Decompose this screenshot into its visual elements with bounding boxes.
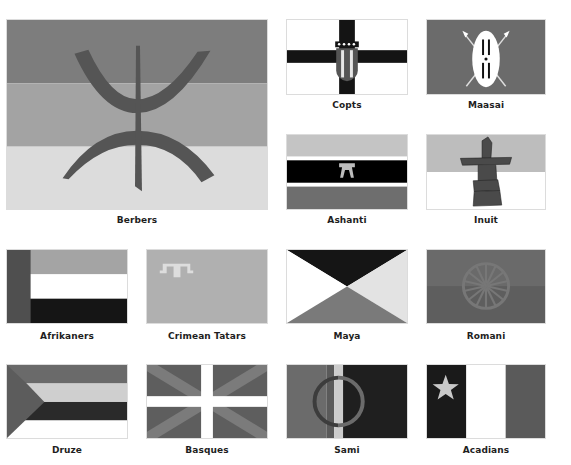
ikurrina-graphic [147,365,267,438]
druze-flag-graphic [7,365,127,438]
flag-label-druze: Druze [6,445,128,455]
flag-label-maya: Maya [286,331,408,341]
flag-label-ashanti: Ashanti [286,215,408,225]
flag-label-basques: Basques [146,445,268,455]
coptic-cross-emblem-icon [287,20,407,94]
stella-maris-star-icon [427,365,545,438]
golden-stool-icon [287,135,407,209]
afrikaners-flag-graphic [7,250,127,323]
flag-berbers [6,19,268,210]
maya-flag-graphic [287,250,407,323]
flag-maasai [426,19,546,95]
flag-sami [286,364,408,439]
berber-yaz-symbol-icon [7,20,267,209]
chakra-wheel-icon [427,250,545,323]
flag-label-acadians: Acadians [426,445,546,455]
inukshuk-icon [427,135,545,209]
flag-crimean-tatars [146,249,268,324]
flag-label-crimean-tatars: Crimean Tatars [146,331,268,341]
flag-afrikaners [6,249,128,324]
sami-sun-moon-ring-icon [287,365,407,438]
flag-inuit [426,134,546,210]
flag-label-sami: Sami [286,445,408,455]
flag-basques [146,364,268,439]
maasai-shield-spears-icon [427,20,545,94]
tarak-tamga-icon [147,250,267,323]
flag-label-afrikaners: Afrikaners [6,331,128,341]
flag-ashanti [286,134,408,210]
flag-copts [286,19,408,95]
flag-label-inuit: Inuit [426,215,546,225]
flag-label-romani: Romani [426,331,546,341]
flag-druze [6,364,128,439]
flag-label-copts: Copts [286,100,408,110]
flag-label-berbers: Berbers [6,215,268,225]
flag-acadians [426,364,546,439]
flag-maya [286,249,408,324]
flag-romani [426,249,546,324]
flag-label-maasai: Maasai [426,100,546,110]
